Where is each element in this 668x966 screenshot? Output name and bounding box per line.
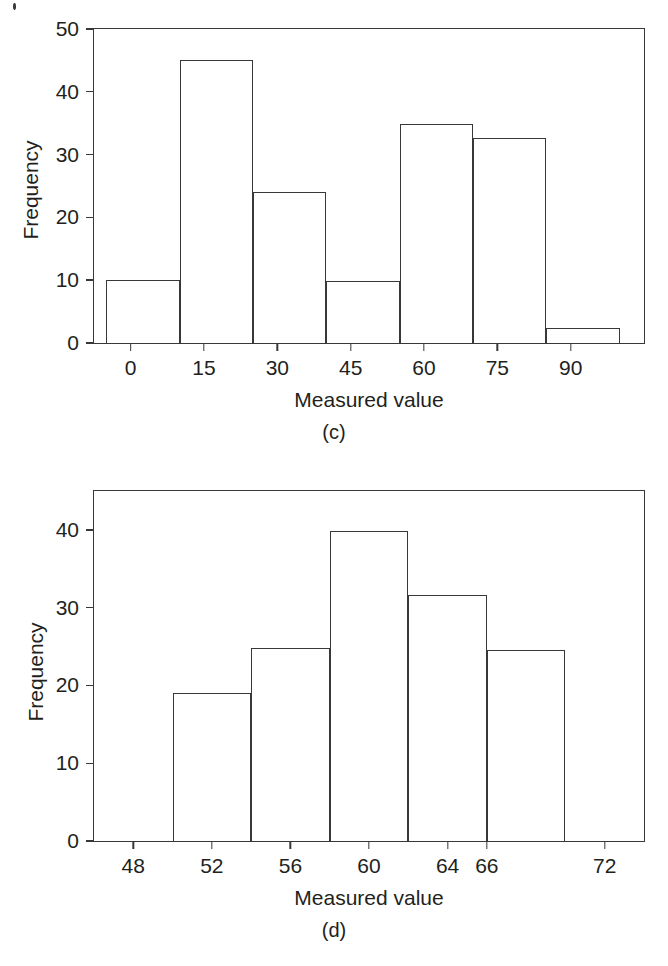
y-axis-tick: 40	[56, 518, 94, 542]
histogram-bar	[173, 693, 252, 841]
x-axis-tick: 60	[357, 841, 380, 878]
histogram-bar	[330, 531, 409, 841]
y-axis-tick: 10	[56, 268, 94, 292]
x-axis-tick: 90	[559, 343, 582, 380]
y-axis-tick: 10	[56, 751, 94, 775]
histogram-bar	[253, 192, 326, 343]
x-axis-tick: 64	[436, 841, 459, 878]
x-axis-tick-mark	[350, 343, 351, 351]
histogram-bar	[106, 280, 179, 343]
x-axis-tick: 15	[192, 343, 215, 380]
y-axis-tick-mark	[86, 685, 94, 686]
histogram-bar	[473, 138, 546, 343]
x-axis-tick-mark	[277, 343, 278, 351]
panel-caption-c: (c)	[0, 421, 668, 444]
x-axis-tick-mark	[447, 841, 448, 849]
x-axis-tick: 72	[593, 841, 616, 878]
y-axis-tick-label: 40	[56, 518, 86, 542]
y-axis-tick: 20	[56, 205, 94, 229]
x-axis-tick-mark	[368, 841, 369, 849]
bar-group-d	[94, 491, 644, 841]
y-axis-tick-label: 30	[56, 143, 86, 167]
y-axis-tick-mark	[86, 279, 94, 280]
x-axis-tick-label: 48	[122, 854, 145, 878]
histogram-bar	[408, 595, 487, 841]
panel-caption-d: (d)	[0, 919, 668, 942]
x-axis-tick-label: 56	[279, 854, 302, 878]
x-axis-tick-label: 72	[593, 854, 616, 878]
x-axis-tick-mark	[570, 343, 571, 351]
y-axis-tick-label: 40	[56, 80, 86, 104]
y-axis-tick-label: 30	[56, 596, 86, 620]
y-axis-tick: 0	[67, 829, 94, 853]
x-axis-tick-mark	[133, 841, 134, 849]
y-axis-tick-mark	[86, 763, 94, 764]
x-axis-tick-label: 15	[192, 356, 215, 380]
figure-d: 010203040 48525660646672 Frequency Measu…	[0, 450, 668, 966]
y-axis-tick-label: 0	[67, 829, 86, 853]
y-axis-tick-mark	[86, 342, 94, 343]
x-axis-tick: 0	[125, 343, 137, 380]
x-axis-tick-label: 66	[475, 854, 498, 878]
x-axis-tick-label: 45	[339, 356, 362, 380]
x-axis-tick: 52	[200, 841, 223, 878]
y-axis-tick: 40	[56, 80, 94, 104]
figure-page: 01020304050 0153045607590 Frequency Meas…	[0, 0, 668, 966]
x-axis-tick-mark	[130, 343, 131, 351]
x-axis-title-c: Measured value	[93, 388, 645, 412]
y-axis-tick-mark	[86, 154, 94, 155]
y-axis-tick: 30	[56, 596, 94, 620]
x-axis-tick: 45	[339, 343, 362, 380]
x-axis-tick-label: 52	[200, 854, 223, 878]
x-axis-tick-label: 64	[436, 854, 459, 878]
y-axis-tick: 30	[56, 143, 94, 167]
y-axis-title-c: Frequency	[19, 130, 43, 250]
y-axis-title-d: Frequency	[24, 612, 48, 732]
histogram-bar	[251, 648, 330, 841]
y-axis-tick-label: 0	[67, 331, 86, 355]
y-axis-tick-label: 10	[56, 268, 86, 292]
plot-area-c: 01020304050 0153045607590	[93, 28, 645, 344]
x-axis-tick-mark	[486, 841, 487, 849]
histogram-bar	[400, 124, 473, 343]
bar-group-c	[94, 29, 644, 343]
y-axis-tick-label: 50	[56, 17, 86, 41]
y-axis-tick-mark	[86, 91, 94, 92]
x-axis-tick-label: 0	[125, 356, 137, 380]
y-axis-tick: 0	[67, 331, 94, 355]
y-axis-tick: 50	[56, 17, 94, 41]
y-axis-tick-mark	[86, 28, 94, 29]
histogram-bar	[487, 650, 566, 841]
histogram-bar	[180, 60, 253, 343]
x-axis-tick-label: 60	[357, 854, 380, 878]
x-axis-tick: 60	[412, 343, 435, 380]
x-axis-tick: 30	[266, 343, 289, 380]
y-axis-tick-label: 20	[56, 673, 86, 697]
y-axis-tick-label: 10	[56, 751, 86, 775]
x-axis-tick: 66	[475, 841, 498, 878]
x-axis-title-d: Measured value	[93, 886, 645, 910]
x-axis-tick-mark	[604, 841, 605, 849]
x-axis-tick-mark	[290, 841, 291, 849]
x-axis-tick-label: 30	[266, 356, 289, 380]
y-axis-tick-mark	[86, 840, 94, 841]
x-axis-tick-mark	[203, 343, 204, 351]
x-axis-tick: 75	[486, 343, 509, 380]
y-axis-tick: 20	[56, 673, 94, 697]
x-axis-tick-mark	[423, 343, 424, 351]
x-axis-tick-label: 75	[486, 356, 509, 380]
plot-area-d: 010203040 48525660646672	[93, 490, 645, 842]
histogram-bar	[546, 328, 619, 343]
x-axis-tick: 48	[122, 841, 145, 878]
x-axis-tick-label: 60	[412, 356, 435, 380]
y-axis-tick-mark	[86, 529, 94, 530]
y-axis-tick-mark	[86, 217, 94, 218]
x-axis-tick-mark	[211, 841, 212, 849]
x-axis-tick-label: 90	[559, 356, 582, 380]
y-axis-tick-label: 20	[56, 205, 86, 229]
y-axis-tick-mark	[86, 607, 94, 608]
x-axis-tick: 56	[279, 841, 302, 878]
figure-c: 01020304050 0153045607590 Frequency Meas…	[0, 0, 668, 450]
histogram-bar	[326, 281, 399, 343]
x-axis-tick-mark	[497, 343, 498, 351]
